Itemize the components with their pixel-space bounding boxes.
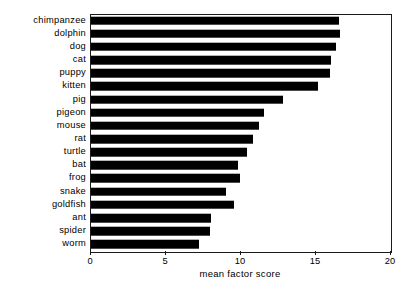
- x-axis-tick: [90, 251, 91, 255]
- bar: [91, 174, 240, 183]
- category-label: dolphin: [54, 29, 86, 38]
- bar: [91, 122, 259, 131]
- bar: [91, 161, 238, 170]
- bar-row: mouse: [0, 119, 420, 132]
- bar: [91, 214, 211, 223]
- x-axis-tick: [165, 251, 166, 255]
- x-axis-tick-label: 0: [87, 257, 92, 266]
- x-axis-tick: [390, 251, 391, 255]
- category-label: bat: [72, 161, 86, 170]
- bar: [91, 69, 330, 78]
- category-label: frog: [69, 174, 86, 183]
- x-axis-title: mean factor score: [90, 269, 390, 279]
- bar: [91, 200, 234, 209]
- category-label: kitten: [62, 82, 86, 91]
- bar: [91, 227, 210, 236]
- bar: [91, 82, 318, 91]
- bar: [91, 108, 264, 117]
- x-axis-tick-label: 20: [385, 257, 395, 266]
- bar-row: pig: [0, 93, 420, 106]
- category-label: mouse: [57, 121, 86, 130]
- bar-row: ant: [0, 211, 420, 224]
- bar: [91, 240, 199, 249]
- bar-row: kitten: [0, 80, 420, 93]
- bar-row: worm: [0, 238, 420, 251]
- bar-row: pigeon: [0, 106, 420, 119]
- bar-row: puppy: [0, 67, 420, 80]
- bar-row: spider: [0, 225, 420, 238]
- category-label: rat: [74, 134, 86, 143]
- category-label: spider: [59, 226, 86, 235]
- bar: [91, 148, 247, 157]
- category-label: worm: [62, 240, 86, 249]
- bar: [91, 16, 339, 25]
- bar-row: dog: [0, 40, 420, 53]
- bar-row: chimpanzee: [0, 14, 420, 27]
- bar-row: cat: [0, 53, 420, 66]
- bar-row: turtle: [0, 146, 420, 159]
- x-axis-tick-label: 10: [235, 257, 245, 266]
- category-label: cat: [73, 55, 86, 64]
- category-label: goldfish: [52, 200, 86, 209]
- bar-row: bat: [0, 159, 420, 172]
- bar: [91, 56, 331, 65]
- x-axis-tick-label: 15: [310, 257, 320, 266]
- category-label: dog: [70, 42, 86, 51]
- category-label: puppy: [59, 69, 86, 78]
- bar-row: frog: [0, 172, 420, 185]
- bar: [91, 135, 253, 144]
- bar-row: snake: [0, 185, 420, 198]
- x-axis: 05101520: [90, 251, 391, 252]
- bar-chart: chimpanzeedolphindogcatpuppykittenpigpig…: [0, 0, 420, 288]
- category-label: ant: [72, 213, 86, 222]
- x-axis-tick: [240, 251, 241, 255]
- category-label: chimpanzee: [33, 16, 86, 25]
- x-axis-tick: [315, 251, 316, 255]
- bar: [91, 187, 226, 196]
- category-label: snake: [60, 187, 86, 196]
- bar-row: rat: [0, 132, 420, 145]
- bar-row: dolphin: [0, 27, 420, 40]
- category-label: pigeon: [57, 108, 86, 117]
- bar-rows: chimpanzeedolphindogcatpuppykittenpigpig…: [0, 14, 420, 251]
- bar: [91, 43, 336, 52]
- bar-row: goldfish: [0, 198, 420, 211]
- category-label: turtle: [64, 147, 86, 156]
- category-label: pig: [73, 95, 86, 104]
- x-axis-tick-label: 5: [162, 257, 167, 266]
- bar: [91, 95, 283, 104]
- bar: [91, 29, 340, 38]
